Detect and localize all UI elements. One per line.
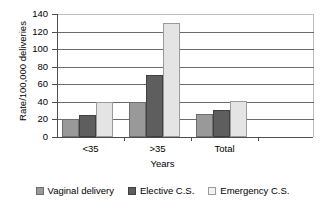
bar	[213, 110, 230, 137]
legend-item: Vaginal delivery	[36, 186, 114, 196]
bar	[129, 102, 146, 137]
legend-label: Elective C.S.	[140, 186, 194, 196]
y-tick-label: 140	[8, 9, 48, 19]
plot-top-border	[58, 14, 314, 15]
y-tick-label: 40	[8, 97, 48, 107]
x-tick-label: Total	[185, 144, 265, 154]
bar	[62, 119, 79, 137]
gridline	[58, 49, 314, 50]
x-axis-title: Years	[0, 159, 325, 169]
y-tick-label: 120	[8, 27, 48, 37]
legend-label: Vaginal delivery	[48, 186, 114, 196]
legend-item: Emergency C.S.	[208, 186, 289, 196]
x-tick-mark	[124, 137, 125, 141]
legend-swatch-icon	[128, 187, 136, 195]
bar	[196, 114, 213, 137]
gridline	[58, 32, 314, 33]
bar	[146, 75, 163, 137]
plot-area	[57, 14, 314, 137]
y-tick-label: 100	[8, 44, 48, 54]
y-tick-label: 20	[8, 114, 48, 124]
x-tick-mark	[191, 137, 192, 141]
y-tick-label: 0	[8, 132, 48, 142]
gridline	[58, 67, 314, 68]
bar	[163, 23, 180, 137]
bar	[79, 115, 96, 137]
x-tick-mark	[258, 137, 259, 141]
legend-label: Emergency C.S.	[220, 186, 289, 196]
bar-chart: Rate/100,000 deliveries 0204060801001201…	[0, 0, 325, 209]
bar	[230, 101, 247, 137]
bar	[96, 102, 113, 137]
y-tick-label: 80	[8, 62, 48, 72]
legend-swatch-icon	[208, 187, 216, 195]
y-tick-label: 60	[8, 79, 48, 89]
gridline	[58, 84, 314, 85]
legend-swatch-icon	[36, 187, 44, 195]
legend-item: Elective C.S.	[128, 186, 194, 196]
x-axis-line	[57, 137, 313, 138]
chart-legend: Vaginal deliveryElective C.S.Emergency C…	[0, 186, 325, 196]
